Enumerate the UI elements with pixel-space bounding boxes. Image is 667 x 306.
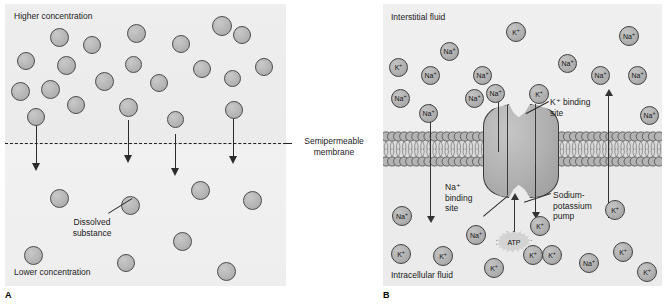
phospholipid-tail	[635, 149, 637, 158]
phospholipid-tail	[469, 141, 471, 150]
phospholipid-tail	[398, 141, 400, 150]
phospholipid-tail	[457, 149, 459, 158]
solute-particle	[41, 80, 60, 99]
phospholipid-tail	[471, 149, 473, 158]
solute-particle	[57, 56, 76, 75]
phospholipid-tail	[590, 149, 592, 158]
phospholipid-tail	[471, 141, 473, 150]
phospholipid-tail	[584, 141, 586, 150]
solute-particle	[173, 232, 192, 251]
phospholipid-tail	[617, 141, 619, 150]
phospholipid-tail	[465, 141, 467, 150]
panel-a-letter: A	[5, 290, 12, 300]
phospholipid-tail	[659, 149, 661, 158]
phospholipid-tail	[416, 149, 418, 158]
sodium-potassium-pump-protein	[483, 104, 559, 198]
phospholipid-tail	[597, 149, 599, 158]
phospholipid-tail	[560, 149, 562, 158]
sodium-ion: Na+	[486, 84, 505, 103]
phospholipid-tail	[433, 149, 435, 158]
phospholipid-tail	[592, 141, 594, 150]
potassium-ion: K+	[433, 246, 453, 266]
solute-particle	[193, 60, 211, 78]
phospholipid-tail	[409, 141, 411, 150]
phospholipid-tail	[457, 141, 459, 150]
phospholipid-tail	[451, 149, 453, 158]
phospholipid-tail	[409, 149, 411, 158]
solute-particle	[225, 101, 243, 119]
phospholipid-tail	[578, 141, 580, 150]
solute-particle	[125, 56, 142, 73]
phospholipid-tail	[645, 149, 647, 158]
phospholipid-tail	[598, 149, 600, 158]
lower-concentration-label: Lower concentration	[14, 267, 91, 278]
diffusion-arrow	[128, 120, 129, 156]
sodium-ion: Na+	[421, 66, 440, 85]
phospholipid-tail	[604, 141, 606, 150]
phospholipid-tail	[633, 149, 635, 158]
solute-particle	[255, 58, 273, 76]
phospholipid-tail	[627, 141, 629, 150]
phospholipid-tail	[398, 149, 400, 158]
semipermeable-membrane-label: Semipermeable membrane	[292, 136, 376, 157]
phospholipid-tail	[657, 149, 659, 158]
pump-seam-left	[507, 105, 508, 195]
solute-particle	[11, 82, 30, 101]
potassium-ion: K+	[391, 244, 411, 264]
phospholipid-tail	[641, 141, 643, 150]
phospholipid-tail	[384, 141, 386, 150]
solute-particle	[150, 74, 168, 92]
sodium-ion: Na+	[466, 225, 486, 245]
semipermeable-membrane-leader	[285, 143, 292, 144]
phospholipid-tail	[427, 141, 429, 150]
phospholipid-tail	[453, 149, 455, 158]
phospholipid-tail	[435, 141, 437, 150]
sodium-ion: Na+	[419, 104, 438, 123]
higher-concentration-region	[5, 4, 286, 145]
sodium-ion: Na+	[391, 89, 410, 108]
phospholipid-tail	[586, 149, 588, 158]
potassium-ion: K+	[605, 200, 625, 220]
phospholipid-tail	[586, 141, 588, 150]
phospholipid-tail	[590, 141, 592, 150]
phospholipid-tail	[635, 141, 637, 150]
phospholipid-tail	[560, 141, 562, 150]
phospholipid-tail	[451, 141, 453, 150]
solute-particle	[27, 108, 45, 126]
lower-concentration-region	[5, 145, 286, 286]
phospholipid-tail	[433, 141, 435, 150]
phospholipid-tail	[627, 149, 629, 158]
phospholipid-tail	[386, 141, 388, 150]
phospholipid-tail	[651, 149, 653, 158]
phospholipid-tail	[566, 149, 568, 158]
sodium-ion: Na+	[619, 26, 639, 46]
intracellular-fluid-label: Intracellular fluid	[391, 270, 453, 281]
dissolved-substance-label: Dissolved substance	[57, 217, 127, 238]
phospholipid-tail	[617, 149, 619, 158]
phospholipid-tail	[641, 149, 643, 158]
phospholipid-tail	[465, 149, 467, 158]
phospholipid-tail	[578, 149, 580, 158]
phospholipid-tail	[402, 149, 404, 158]
potassium-ion: K+	[389, 58, 408, 77]
semipermeable-membrane-line	[5, 143, 286, 144]
potassium-ion: K+	[613, 242, 633, 262]
phospholipid-tail	[572, 141, 574, 150]
phospholipid-tail	[610, 141, 612, 150]
phospholipid-tail	[568, 141, 570, 150]
phospholipid-tail	[469, 149, 471, 158]
phospholipid-tail	[441, 141, 443, 150]
phospholipid-tail	[453, 141, 455, 150]
phospholipid-tail	[603, 149, 605, 158]
sodium-ion: Na+	[591, 66, 610, 85]
phospholipid-tail	[592, 149, 594, 158]
phospholipid-tail	[441, 149, 443, 158]
panel-a-diffusion: Higher concentration Lower concentration…	[5, 4, 286, 286]
phospholipid-tail	[402, 141, 404, 150]
phospholipid-tail	[390, 149, 392, 158]
atp-arrow	[514, 200, 515, 232]
phospholipid-tail	[653, 149, 655, 158]
solute-particle	[127, 24, 146, 43]
phospholipid-tail	[657, 141, 659, 150]
sodium-ion: Na+	[640, 106, 659, 125]
